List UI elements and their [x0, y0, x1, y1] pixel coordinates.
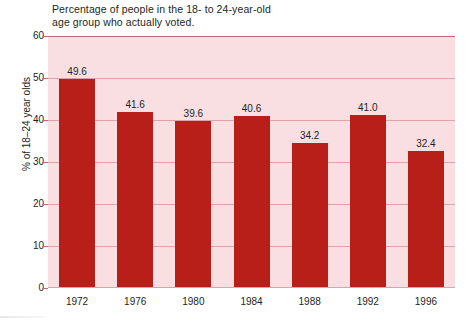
x-tick-label: 1984 — [222, 297, 282, 307]
y-tick-mark — [42, 120, 48, 121]
y-tick-label: 50 — [20, 73, 44, 83]
bar-chart-figure: Percentage of people in the 18- to 24-ye… — [0, 0, 470, 326]
x-axis-line — [48, 287, 455, 288]
y-tick-label: 40 — [20, 115, 44, 125]
y-tick-label: 20 — [20, 199, 44, 209]
bar-value-label: 41.0 — [338, 103, 398, 113]
chart-title: Percentage of people in the 18- to 24-ye… — [52, 3, 352, 29]
bar — [175, 121, 211, 287]
x-tick-label: 1976 — [105, 297, 165, 307]
bar — [117, 112, 153, 287]
x-tick-label: 1996 — [396, 297, 456, 307]
x-tick-label: 1992 — [338, 297, 398, 307]
bar — [350, 115, 386, 287]
gridline — [48, 36, 455, 37]
bar-value-label: 49.6 — [47, 67, 107, 77]
y-tick-mark — [42, 162, 48, 163]
y-tick-mark — [42, 204, 48, 205]
y-tick-mark — [42, 246, 48, 247]
bar-value-label: 34.2 — [280, 131, 340, 141]
gridline — [48, 78, 455, 79]
plot-area — [48, 36, 455, 288]
bar-value-label: 32.4 — [396, 139, 456, 149]
y-tick-label: 60 — [20, 31, 44, 41]
y-tick-mark — [42, 36, 48, 37]
y-tick-label: 0 — [20, 283, 44, 293]
bar-value-label: 39.6 — [163, 109, 223, 119]
y-tick-mark — [42, 288, 48, 289]
x-tick-label: 1980 — [163, 297, 223, 307]
bar-value-label: 40.6 — [222, 104, 282, 114]
x-tick-label: 1972 — [47, 297, 107, 307]
y-tick-label: 30 — [20, 157, 44, 167]
scan-artifact — [0, 316, 46, 318]
y-tick-label: 10 — [20, 241, 44, 251]
bar-value-label: 41.6 — [105, 100, 165, 110]
bar — [234, 116, 270, 287]
y-tick-mark — [42, 78, 48, 79]
x-tick-label: 1988 — [280, 297, 340, 307]
bar — [408, 151, 444, 287]
bar — [292, 143, 328, 287]
bar — [59, 79, 95, 287]
